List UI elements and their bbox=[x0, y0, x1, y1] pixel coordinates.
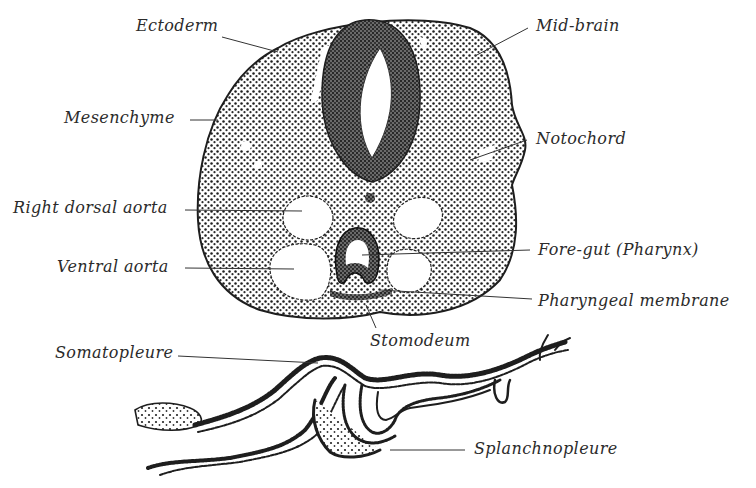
label-pharyngeal-membrane: Pharyngeal membrane bbox=[538, 293, 730, 309]
label-ectoderm: Ectoderm bbox=[136, 18, 218, 34]
label-somatopleure: Somatopleure bbox=[55, 345, 173, 361]
label-stomodeum: Stomodeum bbox=[370, 333, 471, 349]
label-mid-brain: Mid-brain bbox=[536, 18, 620, 34]
label-ventral-aorta: Ventral aorta bbox=[57, 259, 169, 275]
head-section bbox=[198, 20, 526, 319]
label-splanchnopleure: Splanchnopleure bbox=[474, 441, 618, 457]
label-mesenchyme: Mesenchyme bbox=[64, 110, 175, 126]
label-right-dorsal-aorta: Right dorsal aorta bbox=[13, 200, 168, 216]
label-fore-gut: Fore-gut (Pharynx) bbox=[538, 242, 699, 258]
embryo-section-diagram: Ectoderm Mid-brain Mesenchyme Notochord … bbox=[0, 0, 756, 488]
label-notochord: Notochord bbox=[536, 131, 626, 147]
